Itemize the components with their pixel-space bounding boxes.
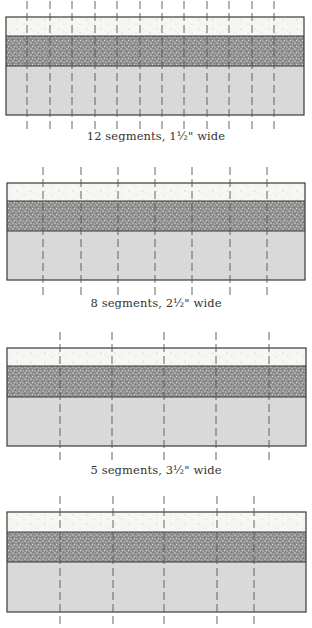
grey-fabric-strip (7, 397, 306, 446)
dark-fabric-strip (7, 201, 305, 231)
strip-panel-4 (7, 496, 306, 628)
strip-panel-1 (6, 1, 304, 131)
strip-set-illustration (0, 0, 312, 628)
caption-12-segments: 12 segments, 1½" wide (0, 129, 312, 143)
dark-fabric-strip (6, 36, 304, 66)
caption-8-segments: 8 segments, 2½" wide (0, 296, 312, 310)
light-fabric-strip (7, 512, 306, 532)
light-fabric-strip (6, 17, 304, 36)
dark-fabric-strip (7, 532, 306, 562)
strip-panel-2 (7, 167, 305, 296)
strip-panel-3 (7, 332, 306, 462)
dark-fabric-strip (7, 366, 306, 397)
grey-fabric-strip (6, 66, 304, 115)
light-fabric-strip (7, 183, 305, 201)
quilt-strip-diagrams: 12 segments, 1½" wide 8 segments, 2½" wi… (0, 0, 312, 628)
caption-5-segments: 5 segments, 3½" wide (0, 463, 312, 477)
grey-fabric-strip (7, 231, 305, 280)
light-fabric-strip (7, 348, 306, 366)
grey-fabric-strip (7, 562, 306, 612)
